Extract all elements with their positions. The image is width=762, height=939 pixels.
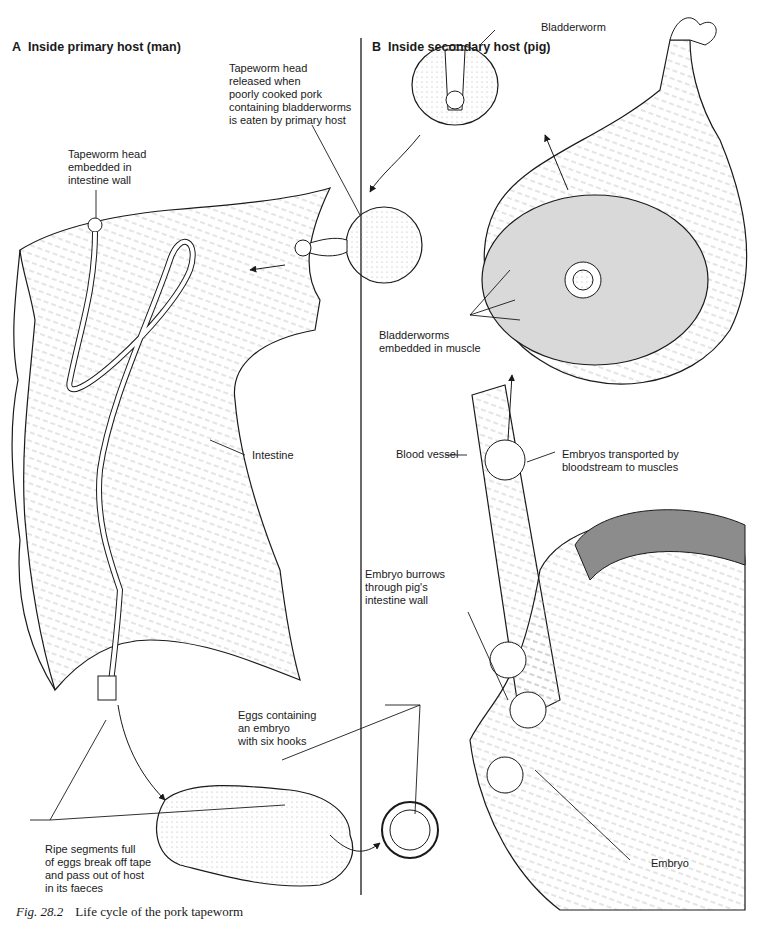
- pork-leg: [482, 18, 747, 384]
- label-embryos-transported: Embryos transported by bloodstream to mu…: [562, 448, 679, 474]
- label-embryo: Embryo: [651, 857, 689, 870]
- label-blood-vessel: Blood vessel: [396, 448, 458, 461]
- label-bladderworm: Bladderworm: [541, 21, 606, 34]
- label-eggs-containing: Eggs containing an embryo with six hooks: [238, 709, 316, 748]
- label-tapeworm-head-released: Tapeworm head released when poorly cooke…: [229, 62, 351, 127]
- panel-b-letter: B: [372, 40, 381, 54]
- panel-a-letter: A: [12, 40, 21, 54]
- label-intestine: Intestine: [252, 449, 294, 462]
- figure-caption-text: Life cycle of the pork tapeworm: [75, 904, 243, 919]
- bladderworm: [412, 45, 498, 125]
- figure-caption: Fig. 28.2Life cycle of the pork tapeworm: [16, 904, 243, 920]
- label-bladderworms-in-muscle: Bladderworms embedded in muscle: [379, 329, 481, 355]
- egg: [382, 802, 438, 858]
- panel-a-title: A Inside primary host (man): [12, 40, 181, 54]
- ripe-segment: [157, 786, 353, 886]
- panel-b-title-text: Inside secondary host (pig): [388, 40, 551, 54]
- label-tapeworm-head-embedded: Tapeworm head embedded in intestine wall: [68, 148, 146, 187]
- panel-a-title-text: Inside primary host (man): [28, 40, 181, 54]
- label-embryo-burrows: Embryo burrows through pig's intestine w…: [365, 568, 445, 607]
- panel-b-title: B Inside secondary host (pig): [372, 40, 551, 54]
- label-ripe-segments: Ripe segments full of eggs break off tap…: [45, 843, 151, 895]
- figure-number: Fig. 28.2: [16, 904, 63, 919]
